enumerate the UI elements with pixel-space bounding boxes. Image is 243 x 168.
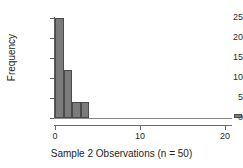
- y-tick-label: 10: [197, 73, 243, 82]
- plot-area: 0510152025 01020: [0, 0, 243, 168]
- x-tick-label: 20: [205, 131, 243, 141]
- x-tick: [140, 126, 141, 130]
- y-tick: [50, 18, 54, 19]
- y-tick-label: 5: [197, 93, 243, 102]
- y-tick-label: 15: [197, 53, 243, 62]
- y-tick: [50, 98, 54, 99]
- x-tick-label: 10: [120, 131, 160, 141]
- histogram-figure: 0510152025 01020 Frequency Sample 2 Obse…: [0, 0, 243, 168]
- x-axis-title: Sample 2 Observations (n = 50): [0, 148, 243, 159]
- x-tick: [55, 126, 56, 130]
- y-tick: [50, 58, 54, 59]
- histogram-bar: [81, 102, 90, 118]
- x-tick: [225, 126, 226, 130]
- histogram-bar: [64, 70, 73, 118]
- x-axis-spine: [54, 125, 232, 126]
- y-tick: [50, 78, 54, 79]
- y-tick: [50, 118, 54, 119]
- y-tick: [50, 38, 54, 39]
- y-tick-label: 20: [197, 33, 243, 42]
- histogram-bar: [55, 18, 64, 118]
- histogram-bar: [72, 102, 81, 118]
- y-axis-title: Frequency: [6, 16, 17, 100]
- y-tick-label: 25: [197, 13, 243, 22]
- histogram-bar: [234, 114, 243, 118]
- x-tick-label: 0: [35, 131, 75, 141]
